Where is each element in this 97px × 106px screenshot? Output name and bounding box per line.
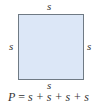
side-label-right: s — [87, 41, 91, 52]
formula-equals: = — [18, 90, 25, 104]
square-shape — [18, 14, 84, 80]
formula-rhs: s + s + s + s — [28, 90, 89, 104]
formula-lhs: P — [8, 90, 15, 104]
side-label-top: s — [47, 1, 51, 12]
perimeter-formula: P = s + s + s + s — [0, 91, 97, 104]
side-label-left: s — [9, 41, 13, 52]
